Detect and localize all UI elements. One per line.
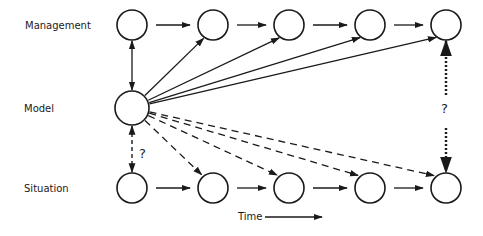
situation-node-2 [274,173,304,203]
time-axis-label: Time [237,211,262,222]
question-mark-model-situation: ? [139,146,146,161]
situation-node-1 [198,173,228,203]
model-to-management-1 [145,38,204,95]
model-node [115,91,149,125]
model-to-management-4 [150,37,437,103]
management-node-2 [274,10,304,40]
nodes-layer [115,10,461,203]
model-to-situation-3 [149,113,358,175]
management-node-4 [431,10,461,40]
row-label-management: Management [25,20,91,31]
management-node-1 [198,10,228,40]
situation-node-3 [355,173,385,203]
management-node-3 [355,10,385,40]
links-layer [132,25,446,188]
model-to-management-3 [149,38,360,103]
question-mark-final-link: ? [441,101,448,116]
situation-node-4 [431,173,461,203]
row-label-situation: Situation [24,183,69,194]
model-to-situation-1 [145,120,202,174]
row-label-model: Model [24,103,54,114]
situation-node-0 [117,173,147,203]
management-node-0 [117,10,147,40]
diagram-canvas: Management Model Situation ? ? Time [0,0,483,236]
